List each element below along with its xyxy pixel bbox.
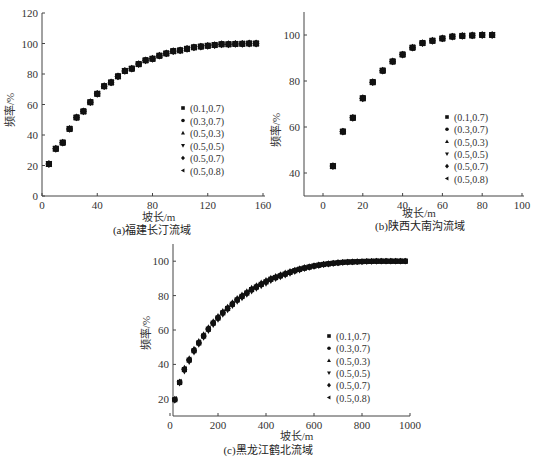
chart-a-fujian-changting: 04080120160020406080100120坡长/m频率/%(a)福建长… (3, 7, 272, 237)
legend-marker-icon (445, 115, 449, 119)
legend: (0.1,0.7)(0.3,0.7)(0.5,0.3)(0.5,0.5)(0.5… (181, 103, 224, 178)
x-tick-label: 160 (255, 199, 272, 211)
legend-marker-icon (327, 358, 331, 362)
legend-entry: (0.3,0.7) (336, 343, 370, 355)
legend-entry: (0.5,0.7) (336, 380, 370, 392)
legend-entry: (0.5,0.3) (190, 128, 224, 140)
legend-entry: (0.3,0.7) (190, 116, 224, 128)
y-tick-label: 120 (22, 7, 39, 19)
legend-entry: (0.5,0.8) (190, 166, 224, 178)
x-axis-title: 坡长/m (280, 430, 314, 442)
x-axis-title: 坡长/m (402, 207, 436, 219)
legend-marker-icon (181, 131, 185, 135)
y-tick-label: 40 (27, 129, 39, 141)
chart-caption: (b)陕西大南沟流域 (375, 219, 465, 233)
legend-entry: (0.5,0.5) (190, 141, 224, 153)
y-tick-label: 100 (153, 255, 170, 267)
legend-marker-icon (327, 371, 331, 375)
chart-b-shaanxi-dananggou: 020406080100406080100坡长/m频率/%(b)陕西大南沟流域(… (269, 12, 531, 233)
legend-marker-icon (181, 106, 185, 110)
x-tick-label: 120 (200, 199, 217, 211)
x-tick-label: 0 (167, 419, 173, 431)
y-tick-label: 60 (27, 99, 39, 111)
legend-entry: (0.1,0.7) (190, 103, 224, 115)
x-tick-label: 40 (92, 199, 104, 211)
y-tick-label: 100 (284, 29, 301, 41)
figure-canvas: 04080120160020406080100120坡长/m频率/%(a)福建长… (0, 0, 537, 465)
y-tick-label: 60 (289, 121, 301, 133)
x-tick-label: 200 (210, 419, 227, 431)
legend-marker-icon (327, 396, 331, 400)
legend-entry: (0.5,0.5) (454, 149, 488, 161)
legend-marker-icon (327, 383, 331, 388)
legend-entry: (0.5,0.8) (454, 174, 488, 186)
y-tick-label: 40 (158, 358, 170, 370)
y-axis-title: 频率/% (269, 113, 282, 147)
y-tick-label: 40 (289, 167, 301, 179)
x-tick-label: 1000 (399, 419, 422, 431)
legend-entry: (0.5,0.7) (454, 161, 488, 173)
legend: (0.1,0.7)(0.3,0.7)(0.5,0.3)(0.5,0.5)(0.5… (445, 112, 488, 186)
y-tick-label: 20 (158, 393, 170, 405)
legend-entry: (0.5,0.7) (190, 153, 224, 165)
y-axis-title: 频率/% (3, 93, 16, 127)
legend-entry: (0.5,0.3) (336, 356, 370, 368)
data-points (172, 258, 408, 404)
chart-caption: (c)黑龙江鹤北流域 (223, 443, 312, 457)
legend-entry: (0.1,0.7) (454, 112, 488, 124)
y-tick-label: 60 (158, 324, 170, 336)
x-tick-label: 20 (357, 199, 369, 211)
legend-entry: (0.1,0.7) (336, 331, 370, 343)
legend-marker-icon (445, 164, 449, 169)
y-axis-title: 频率/% (139, 316, 152, 350)
legend-marker-icon (445, 128, 449, 132)
legend-marker-icon (181, 144, 185, 148)
x-tick-label: 80 (147, 199, 159, 211)
x-axis-title: 坡长/m (142, 211, 176, 223)
legend-marker-icon (181, 156, 185, 161)
x-tick-label: 60 (437, 199, 449, 211)
y-tick-label: 20 (27, 160, 39, 172)
y-tick-label: 80 (27, 68, 39, 80)
legend-entry: (0.5,0.3) (454, 137, 488, 149)
legend-marker-icon (181, 119, 185, 123)
x-tick-label: 100 (514, 199, 531, 211)
x-tick-label: 400 (258, 419, 275, 431)
legend-entry: (0.3,0.7) (454, 124, 488, 136)
legend: (0.1,0.7)(0.3,0.7)(0.5,0.3)(0.5,0.5)(0.5… (327, 331, 370, 405)
legend-marker-icon (181, 169, 185, 173)
chart-caption: (a)福建长汀流域 (113, 223, 191, 237)
y-tick-label: 0 (33, 190, 39, 202)
legend-marker-icon (445, 152, 449, 156)
data-points (45, 40, 259, 168)
legend-entry: (0.5,0.8) (336, 393, 370, 405)
x-tick-label: 800 (354, 419, 371, 431)
y-tick-label: 100 (22, 38, 39, 50)
chart-c-heilongjiang-hebei: 0200400600800100020406080100坡长/m频率/%(c)黑… (139, 244, 422, 457)
legend-marker-icon (445, 177, 449, 181)
x-tick-label: 0 (39, 199, 45, 211)
y-tick-label: 80 (289, 75, 301, 87)
legend-marker-icon (327, 347, 331, 351)
y-tick-label: 80 (158, 290, 170, 302)
x-tick-label: 80 (477, 199, 489, 211)
legend-entry: (0.5,0.5) (336, 368, 370, 380)
legend-marker-icon (327, 334, 331, 338)
legend-marker-icon (445, 139, 449, 143)
x-tick-label: 0 (320, 199, 326, 211)
